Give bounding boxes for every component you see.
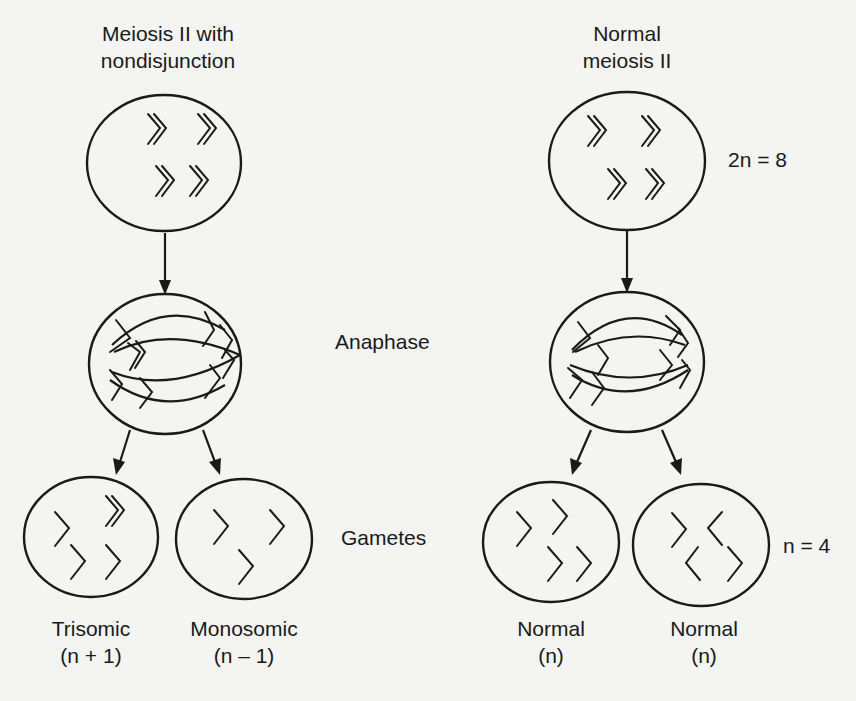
cell-metaphase-nondisjunction	[87, 95, 241, 231]
chromatid-icon	[577, 547, 591, 581]
chromatid-icon	[553, 500, 567, 534]
gamete-label-monosomic: Monosomic (n – 1)	[174, 615, 314, 669]
chromatid-icon	[686, 547, 700, 580]
arrow-to-trisomic-icon	[113, 430, 130, 475]
anaphase-label: Anaphase	[335, 328, 430, 355]
arrow-down-icon	[621, 231, 633, 293]
chromosome-icon	[588, 116, 606, 146]
chromatid-icon	[71, 545, 85, 579]
arrow-to-normal-gamete-2-icon	[662, 430, 682, 475]
gametes-label: Gametes	[341, 524, 426, 551]
chromatid-icon	[214, 510, 228, 544]
cell-anaphase-nondisjunction	[89, 294, 241, 434]
gamete-trisomic	[24, 477, 158, 597]
haploid-count-label: n = 4	[783, 532, 830, 559]
nondisjunction-column	[24, 95, 312, 599]
cell-metaphase-normal	[549, 92, 705, 230]
arrow-to-monosomic-icon	[203, 430, 221, 475]
chromosome-icon	[646, 169, 664, 199]
chromosome-icon	[642, 116, 660, 146]
gamete-label-normal-1: Normal (n)	[481, 615, 621, 669]
chromosome-icon	[198, 114, 216, 144]
chromatid-icon	[239, 550, 253, 584]
gamete-normal-1	[483, 482, 619, 602]
gamete-normal-2	[633, 484, 769, 606]
gamete-label-trisomic: Trisomic (n + 1)	[21, 615, 161, 669]
nondisjunction-title: Meiosis II with nondisjunction	[68, 20, 268, 74]
chromosome-icon	[608, 169, 626, 199]
chromatid-icon	[106, 545, 120, 579]
diploid-count-label: 2n = 8	[728, 146, 787, 173]
chromosome-icon	[190, 166, 208, 196]
chromatid-icon	[548, 547, 562, 581]
chromatid-icon	[270, 510, 284, 544]
arrow-down-icon	[159, 233, 171, 295]
chromatid-icon	[55, 512, 69, 546]
normal-column	[483, 92, 769, 606]
meiosis-nondisjunction-diagram: Meiosis II with nondisjunction Normal me…	[0, 0, 856, 701]
chromosome-icon	[156, 166, 174, 196]
chromatid-icon	[672, 513, 686, 547]
chromosome-icon	[148, 114, 166, 144]
chromatid-icon	[708, 512, 722, 545]
gamete-label-normal-2: Normal (n)	[634, 615, 774, 669]
chromatid-icon	[517, 512, 531, 546]
chromatid-icon	[728, 547, 742, 581]
cell-anaphase-normal	[550, 292, 704, 432]
normal-title: Normal meiosis II	[537, 20, 717, 74]
gamete-monosomic	[176, 479, 312, 599]
arrow-to-normal-gamete-1-icon	[570, 430, 591, 475]
chromosome-icon	[106, 496, 124, 526]
